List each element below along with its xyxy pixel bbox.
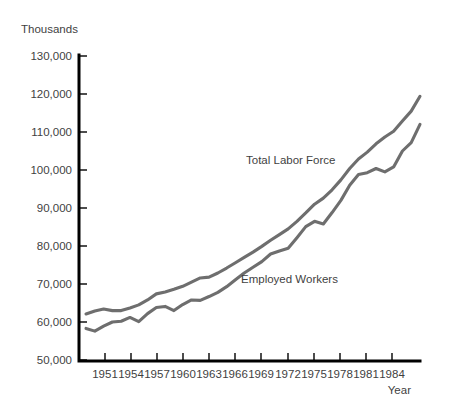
y-tick-label: 120,000: [30, 88, 72, 100]
x-tick-label: 1951: [92, 368, 118, 380]
x-axis-tick-labels: 1951 1954 1957 1960 1963 1966 1969 1972 …: [92, 368, 405, 380]
y-tick-label: 100,000: [30, 164, 72, 176]
x-tick-label: 1978: [327, 368, 353, 380]
y-tick-label: 70,000: [37, 278, 72, 290]
y-tick-label: 130,000: [30, 50, 72, 62]
y-tick-label: 50,000: [37, 354, 72, 366]
x-tick-label: 1972: [275, 368, 301, 380]
x-tick-label: 1981: [353, 368, 379, 380]
data-series-group: [86, 96, 420, 331]
series-label-total-labor-force: Total Labor Force: [246, 154, 336, 166]
x-axis-title: Year: [388, 384, 411, 396]
x-tick-label: 1966: [222, 368, 248, 380]
y-axis-title: Thousands: [21, 23, 78, 35]
x-tick-label: 1975: [301, 368, 327, 380]
series-label-employed-workers: Employed Workers: [241, 273, 338, 285]
line-chart: 130,000 120,000 110,000 100,000 90,000 8…: [0, 0, 457, 404]
y-axis-tick-labels: 130,000 120,000 110,000 100,000 90,000 8…: [30, 50, 72, 366]
y-tick-label: 90,000: [37, 202, 72, 214]
x-tick-label: 1963: [196, 368, 222, 380]
x-tick-label: 1960: [170, 368, 196, 380]
x-tick-label: 1984: [379, 368, 405, 380]
x-tick-label: 1957: [144, 368, 170, 380]
chart-canvas: 130,000 120,000 110,000 100,000 90,000 8…: [0, 0, 457, 404]
y-tick-label: 110,000: [31, 126, 72, 138]
x-tick-label: 1969: [248, 368, 274, 380]
y-tick-label: 80,000: [37, 240, 72, 252]
chart-axes: [79, 55, 420, 361]
x-tick-label: 1954: [118, 368, 144, 380]
y-tick-label: 60,000: [37, 316, 72, 328]
